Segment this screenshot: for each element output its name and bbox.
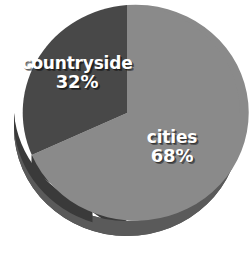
pie-chart-graphic	[0, 0, 251, 254]
pie-chart: countryside 32% cities 68%	[0, 0, 251, 254]
pie-slice-cities-highlight	[127, 5, 240, 113]
